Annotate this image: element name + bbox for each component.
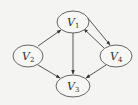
node-v4: V4 (100, 45, 132, 67)
edge-v4-to-v1 (84, 29, 104, 48)
node-v1: V1 (57, 11, 89, 33)
edge-v2-to-v1 (38, 30, 61, 46)
node-v2: V2 (13, 45, 43, 67)
edge-v2-to-v3 (38, 65, 60, 78)
edge-v1-to-v4 (87, 17, 110, 45)
edge-v4-to-v3 (86, 65, 106, 78)
directed-graph-diagram: V1 V2 V3 V4 (0, 0, 138, 105)
node-v3: V3 (56, 75, 90, 97)
